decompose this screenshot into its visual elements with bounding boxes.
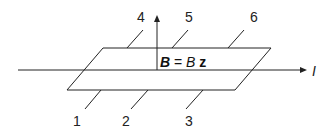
contact-label-1: 1: [73, 114, 81, 128]
contact-lead-5: [172, 30, 188, 48]
current-label: I: [312, 64, 316, 78]
contact-label-2: 2: [122, 114, 130, 128]
field-unit-vector: z: [199, 54, 206, 70]
contact-lead-3: [186, 90, 203, 109]
contact-label-4: 4: [137, 10, 145, 24]
contact-lead-6: [228, 30, 244, 48]
contact-label-5: 5: [185, 10, 193, 24]
field-arrowhead-icon: [154, 15, 160, 22]
contact-lead-4: [127, 30, 143, 48]
field-equals: =: [170, 54, 186, 70]
field-label: B = B z: [160, 55, 206, 69]
contact-lead-2: [131, 90, 148, 109]
contact-lead-1: [85, 90, 101, 109]
field-magnitude: B: [186, 54, 195, 70]
field-symbol: B: [160, 54, 170, 70]
current-arrowhead-icon: [300, 67, 307, 73]
contact-label-3: 3: [185, 114, 193, 128]
contact-label-6: 6: [250, 10, 258, 24]
